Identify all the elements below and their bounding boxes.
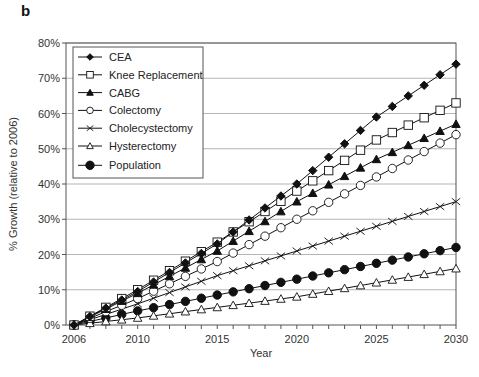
filled-circle-marker-icon: [420, 250, 428, 258]
triangle-marker-icon: [452, 120, 460, 128]
filled-circle-marker-icon: [388, 256, 396, 264]
x-marker-icon: [245, 262, 253, 269]
filled-circle-marker-icon: [309, 272, 317, 280]
triangle-marker-icon: [372, 155, 380, 163]
filled-circle-marker-icon: [293, 275, 301, 283]
x-marker-icon: [309, 243, 317, 250]
open-circle-marker-icon: [165, 280, 173, 288]
y-tick-label: 10%: [38, 284, 60, 296]
triangle-marker-icon: [229, 237, 237, 245]
open-circle-marker-icon: [245, 240, 253, 248]
filled-circle-marker-icon: [277, 278, 285, 286]
x-marker-icon: [149, 295, 157, 302]
open-circle-marker-icon: [277, 224, 285, 232]
triangle-marker-icon: [404, 141, 412, 149]
y-tick-label: 50%: [38, 143, 60, 155]
filled-circle-marker-icon: [86, 161, 94, 169]
open-circle-marker-icon: [372, 173, 380, 181]
square-marker-icon: [87, 72, 94, 79]
open-circle-marker-icon: [404, 156, 412, 164]
filled-circle-marker-icon: [245, 284, 253, 292]
y-axis-title: % Growth (relative to 2006): [7, 117, 19, 251]
x-tick-label: 2010: [125, 333, 149, 345]
y-tick-label: 80%: [38, 37, 60, 49]
open-circle-marker-icon: [356, 181, 364, 189]
filled-circle-marker-icon: [324, 269, 332, 277]
x-marker-icon: [436, 203, 444, 210]
x-marker-icon: [340, 233, 348, 240]
open-circle-marker-icon: [261, 232, 269, 240]
square-marker-icon: [420, 114, 428, 122]
filled-circle-marker-icon: [213, 291, 221, 299]
x-marker-icon: [197, 278, 205, 285]
open-circle-marker-icon: [197, 265, 205, 273]
filled-circle-marker-icon: [356, 262, 364, 270]
filled-circle-marker-icon: [452, 243, 460, 251]
open-circle-marker-icon: [340, 190, 348, 198]
open-circle-marker-icon: [181, 272, 189, 280]
line-chart: 0%10%20%30%40%50%60%70%80%20062010201520…: [0, 0, 479, 377]
square-marker-icon: [372, 136, 380, 144]
x-marker-icon: [324, 238, 332, 245]
legend-label: CEA: [109, 51, 132, 63]
triangle-marker-icon: [309, 189, 317, 197]
legend: CEAKnee ReplacementCABGColectomyCholecys…: [73, 47, 203, 178]
x-marker-icon: [420, 208, 428, 215]
series-population: [70, 243, 460, 329]
x-axis-title: Year: [250, 347, 273, 359]
x-marker-icon: [356, 228, 364, 235]
legend-label: Hysterectomy: [109, 140, 177, 152]
square-marker-icon: [404, 121, 412, 129]
x-marker-icon: [213, 272, 221, 279]
filled-circle-marker-icon: [181, 297, 189, 305]
legend-label: Cholecystectomy: [109, 122, 193, 134]
x-marker-icon: [293, 248, 301, 255]
y-tick-label: 60%: [38, 108, 60, 120]
triangle-marker-icon: [293, 197, 301, 205]
y-tick-label: 0%: [44, 319, 60, 331]
y-tick-label: 70%: [38, 72, 60, 84]
filled-circle-marker-icon: [436, 246, 444, 254]
x-marker-icon: [261, 257, 269, 264]
legend-label: Knee Replacement: [109, 69, 203, 81]
triangle-marker-icon: [261, 217, 269, 225]
open-circle-marker-icon: [309, 207, 317, 215]
triangle-marker-icon: [277, 207, 285, 215]
open-circle-marker-icon: [436, 139, 444, 147]
filled-circle-marker-icon: [261, 281, 269, 289]
x-tick-label: 2025: [364, 333, 388, 345]
diamond-marker-icon: [404, 92, 412, 100]
open-triangle-marker-icon: [452, 264, 460, 272]
legend-label: CABG: [109, 87, 140, 99]
open-circle-marker-icon: [388, 164, 396, 172]
x-tick-label: 2015: [205, 333, 229, 345]
diamond-marker-icon: [388, 102, 396, 110]
diamond-marker-icon: [436, 71, 444, 79]
filled-circle-marker-icon: [149, 304, 157, 312]
y-tick-label: 30%: [38, 213, 60, 225]
square-marker-icon: [324, 166, 332, 174]
open-circle-marker-icon: [87, 107, 94, 114]
triangle-marker-icon: [340, 172, 348, 180]
legend-item: Population: [78, 159, 161, 171]
square-marker-icon: [340, 156, 348, 164]
filled-circle-marker-icon: [197, 294, 205, 302]
square-marker-icon: [388, 128, 396, 136]
x-tick-label: 2020: [285, 333, 309, 345]
open-circle-marker-icon: [293, 215, 301, 223]
open-circle-marker-icon: [213, 257, 221, 265]
x-marker-icon: [229, 267, 237, 274]
legend-label: Population: [109, 159, 161, 171]
x-marker-icon: [277, 253, 285, 260]
triangle-marker-icon: [436, 127, 444, 135]
filled-circle-marker-icon: [372, 259, 380, 267]
y-tick-label: 40%: [38, 178, 60, 190]
diamond-marker-icon: [420, 81, 428, 89]
open-circle-marker-icon: [452, 130, 460, 138]
filled-circle-marker-icon: [165, 300, 173, 308]
x-tick-label: 2006: [62, 333, 86, 345]
square-marker-icon: [356, 146, 364, 154]
open-circle-marker-icon: [420, 147, 428, 155]
diamond-marker-icon: [452, 60, 460, 68]
triangle-marker-icon: [420, 134, 428, 142]
